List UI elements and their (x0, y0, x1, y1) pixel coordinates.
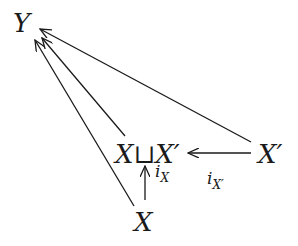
node-x: X (134, 209, 153, 235)
label-ixprime-sub: X′ (212, 178, 223, 192)
coproduct-symbol: ⊔ (134, 139, 156, 169)
node-y: Y (13, 10, 30, 36)
label-ix: iX (155, 163, 169, 180)
label-ix-sub: X (160, 171, 169, 185)
node-xprime: X′ (258, 141, 282, 167)
node-coproduct: X⊔X′ (115, 141, 180, 167)
label-ixprime: iX′ (207, 170, 224, 187)
arrow-x-to-y (35, 40, 134, 206)
arrow-xprime-to-y (40, 29, 251, 142)
coproduct-left: X (115, 139, 134, 169)
